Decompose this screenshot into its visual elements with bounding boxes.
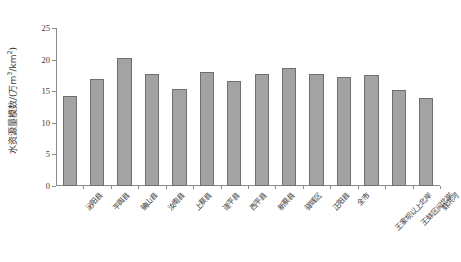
y-axis-tick-label: 10 — [42, 118, 51, 128]
x-axis-tick-label: 平舆县 — [109, 190, 132, 213]
x-axis-tick-mark — [413, 186, 414, 189]
bar — [255, 74, 269, 186]
bar — [364, 75, 378, 186]
bar — [337, 77, 351, 186]
x-axis-tick-mark — [193, 186, 194, 189]
x-axis-tick-label: 全市 — [354, 190, 372, 208]
y-axis-tick-mark — [52, 60, 56, 61]
x-axis-tick-label: 驿城区 — [301, 190, 324, 213]
bar — [227, 81, 241, 186]
bar — [392, 90, 406, 186]
y-axis-tick-mark — [52, 186, 56, 187]
bar — [419, 98, 433, 186]
y-axis-title-main: 水资源量模数/(万m — [9, 76, 19, 154]
y-axis-tick-mark — [52, 154, 56, 155]
bar — [63, 96, 77, 186]
y-axis-line — [56, 28, 57, 186]
bar — [145, 74, 159, 186]
x-axis-tick-mark — [385, 186, 386, 189]
y-axis-tick-label: 0 — [46, 181, 50, 191]
x-axis-tick-label: 正阳县 — [329, 190, 352, 213]
bar — [117, 58, 131, 186]
x-axis-tick-mark — [440, 186, 441, 189]
y-axis-tick-label: 5 — [46, 149, 50, 159]
y-axis-tick-mark — [52, 91, 56, 92]
x-axis-tick-mark — [275, 186, 276, 189]
x-axis-tick-label: 汝南县 — [164, 190, 187, 213]
y-axis-title-mid: /km — [9, 55, 19, 72]
x-axis-tick-label: 上蔡县 — [192, 190, 215, 213]
x-axis-tick-label: 确山县 — [137, 190, 160, 213]
x-axis-tick-mark — [221, 186, 222, 189]
y-axis-title-tail: ) — [9, 47, 19, 51]
y-axis-title-text: 水资源量模数/(万m3/km2) — [7, 47, 20, 154]
x-axis-tick-mark — [303, 186, 304, 189]
x-axis-tick-mark — [358, 186, 359, 189]
y-axis-tick-mark — [52, 123, 56, 124]
y-axis-tick-label: 15 — [42, 86, 51, 96]
bar — [90, 79, 104, 186]
bar — [282, 68, 296, 186]
x-axis-tick-label: 泌阳县 — [82, 190, 105, 213]
y-axis-title-sup-square: 2 — [7, 50, 15, 54]
plot-area: 0510152025 — [56, 28, 440, 186]
bar — [200, 72, 214, 186]
y-axis-tick-mark — [52, 28, 56, 29]
x-axis-tick-mark — [248, 186, 249, 189]
x-axis-tick-label: 遂平县 — [219, 190, 242, 213]
x-axis-tick-mark — [330, 186, 331, 189]
y-axis-tick-label: 25 — [42, 23, 51, 33]
x-axis-tick-label: 新蔡县 — [274, 190, 297, 213]
y-axis-tick-label: 20 — [42, 55, 51, 65]
x-axis-tick-mark — [138, 186, 139, 189]
bar — [309, 74, 323, 186]
x-axis-tick-mark — [111, 186, 112, 189]
y-axis-title-sup-cubic: 3 — [7, 72, 15, 76]
y-axis-title: 水资源量模数/(万m3/km2) — [2, 18, 24, 183]
x-axis-tick-mark — [166, 186, 167, 189]
x-axis-tick-mark — [83, 186, 84, 189]
x-axis-tick-label: 西平县 — [246, 190, 269, 213]
bar — [172, 89, 186, 186]
